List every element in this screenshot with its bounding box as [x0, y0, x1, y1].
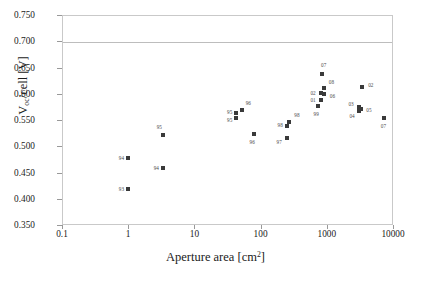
data-point-label: 02: [310, 90, 315, 96]
y-tick-label: 0.650: [14, 63, 35, 73]
data-point-marker: [360, 85, 364, 89]
data-point-label: 02: [368, 82, 373, 88]
data-point-marker: [126, 156, 130, 160]
data-point-label: 99: [314, 111, 319, 117]
data-point-marker: [161, 166, 165, 170]
data-point-marker: [382, 116, 386, 120]
x-tick-label: 1: [126, 229, 131, 239]
y-tick-label: 0.350: [14, 220, 35, 230]
data-point-label: 98: [294, 112, 299, 118]
x-axis-title-base: Aperture area [cm: [166, 250, 257, 264]
y-axis-title: Voc/cell [V]: [16, 11, 31, 161]
data-point-label: 05: [366, 107, 371, 113]
y-axis-title-base: V: [16, 106, 30, 115]
y-axis-title-subscript: oc: [22, 98, 31, 105]
data-point-label: 08: [329, 79, 334, 85]
data-point-marker: [234, 116, 238, 120]
x-axis-title-superscript: 2: [257, 250, 261, 259]
data-point-label: 97: [277, 139, 282, 145]
data-point-marker: [359, 107, 363, 111]
data-point-label: 06: [330, 93, 335, 99]
y-tick-label: 0.700: [14, 36, 35, 46]
x-axis-title: Aperture area [cm2]: [0, 250, 431, 265]
x-tick-mark: [194, 225, 195, 229]
x-tick-mark: [261, 225, 262, 229]
x-tick-label: 10: [190, 229, 199, 239]
x-tick-label: 0.1: [56, 229, 68, 239]
data-point-label: 95: [227, 109, 232, 115]
gridline: [63, 42, 392, 43]
y-tick-label: 0.500: [14, 141, 35, 151]
data-point-label: 07: [381, 123, 386, 129]
data-point-marker: [161, 133, 165, 137]
data-point-label: 98: [278, 122, 283, 128]
data-point-marker: [319, 98, 323, 102]
x-axis-title-tail: ]: [261, 250, 265, 264]
data-point-marker: [320, 72, 324, 76]
data-point-marker: [234, 111, 238, 115]
data-point-marker: [126, 187, 130, 191]
data-point-marker: [252, 132, 256, 136]
data-point-marker: [240, 108, 244, 112]
x-tick-mark: [128, 225, 129, 229]
data-point-label: 95: [157, 124, 162, 130]
data-point-marker: [316, 104, 320, 108]
data-point-label: 96: [249, 139, 254, 145]
data-point-marker: [322, 86, 326, 90]
data-point-label: 94: [154, 165, 159, 171]
y-tick-label: 0.550: [14, 115, 35, 125]
x-tick-label: 1000: [318, 229, 337, 239]
data-point-label: 01: [310, 97, 315, 103]
data-point-marker: [285, 136, 289, 140]
x-tick-mark: [393, 225, 394, 229]
y-tick-label: 0.750: [14, 10, 35, 20]
chart-figure: Voc/cell [V] 0.3500.4000.4500.5000.5500.…: [0, 0, 431, 283]
data-point-marker: [285, 124, 289, 128]
x-tick-mark: [62, 225, 63, 229]
x-tick-mark: [327, 225, 328, 229]
y-tick-label: 0.400: [14, 194, 35, 204]
data-point-label: 93: [119, 186, 124, 192]
data-point-label: 95: [227, 117, 232, 123]
x-tick-label: 10000: [381, 229, 404, 239]
y-tick-label: 0.450: [14, 168, 35, 178]
x-tick-label: 100: [254, 229, 268, 239]
data-point-marker: [322, 92, 326, 96]
data-point-label: 04: [349, 113, 354, 119]
data-point-label: 94: [119, 155, 124, 161]
data-point-label: 96: [246, 100, 251, 106]
data-point-label: 07: [321, 62, 326, 68]
data-point-marker: [287, 120, 291, 124]
y-tick-label: 0.600: [14, 89, 35, 99]
data-point-label: 03: [348, 101, 353, 107]
plot-area: 9394949595959696979898990102060807030405…: [62, 15, 393, 225]
